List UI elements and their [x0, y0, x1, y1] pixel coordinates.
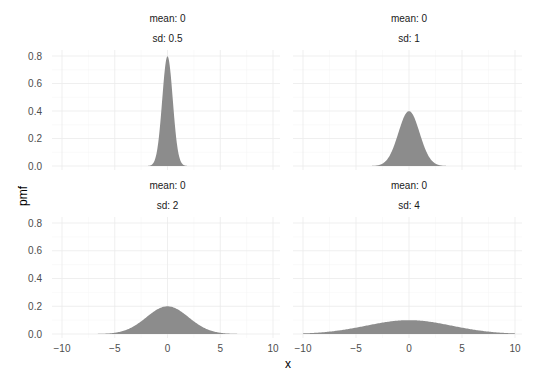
- y-tick-label: 0.6: [28, 78, 42, 89]
- strip-label-sd: sd: 1: [398, 33, 420, 44]
- x-axis-title: x: [285, 357, 291, 371]
- strip-label-sd: sd: 2: [157, 200, 179, 211]
- x-tick-label: −5: [350, 343, 362, 354]
- strip-label-sd: sd: 0.5: [152, 33, 182, 44]
- y-tick-label: 0.4: [28, 106, 42, 117]
- y-tick-label: 0.4: [28, 273, 42, 284]
- y-tick-label: 0.2: [28, 133, 42, 144]
- facet-panel-4: mean: 0sd: 4−10−50510: [293, 180, 522, 354]
- x-tick-label: 5: [459, 343, 465, 354]
- strip-label-mean: mean: 0: [149, 13, 186, 24]
- x-tick-label: −10: [54, 343, 71, 354]
- y-tick-label: 0.8: [28, 218, 42, 229]
- y-tick-label: 0.0: [28, 329, 42, 340]
- x-tick-label: 10: [267, 343, 279, 354]
- strip-label-sd: sd: 4: [398, 200, 420, 211]
- strip-label-mean: mean: 0: [391, 13, 428, 24]
- y-axis-title: pmf: [16, 185, 30, 206]
- strip-label-mean: mean: 0: [391, 180, 428, 191]
- facet-panel-3: mean: 0sd: 20.00.20.40.60.8−10−50510: [28, 180, 280, 354]
- y-tick-label: 0.6: [28, 245, 42, 256]
- x-tick-label: 5: [217, 343, 223, 354]
- x-tick-label: 10: [509, 343, 521, 354]
- x-tick-label: −5: [109, 343, 121, 354]
- y-tick-label: 0.2: [28, 301, 42, 312]
- facet-panel-2: mean: 0sd: 1: [293, 13, 522, 170]
- strip-label-mean: mean: 0: [149, 180, 186, 191]
- facet-panels: mean: 0sd: 0.50.00.20.40.60.8mean: 0sd: …: [28, 13, 522, 354]
- y-tick-label: 0.8: [28, 51, 42, 62]
- x-tick-label: −10: [295, 343, 312, 354]
- density-area: [303, 320, 515, 334]
- faceted-density-chart: mean: 0sd: 0.50.00.20.40.60.8mean: 0sd: …: [0, 0, 536, 385]
- x-tick-label: 0: [406, 343, 412, 354]
- facet-panel-1: mean: 0sd: 0.50.00.20.40.60.8: [28, 13, 280, 172]
- x-tick-label: 0: [165, 343, 171, 354]
- y-tick-label: 0.0: [28, 161, 42, 172]
